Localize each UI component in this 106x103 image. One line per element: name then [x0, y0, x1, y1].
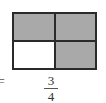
grid-cell-bottom-right	[55, 41, 96, 68]
fraction-denominator: 4	[44, 90, 58, 103]
equals-sign: =	[0, 75, 5, 89]
fraction-numerator: 3	[44, 74, 58, 87]
fraction: 3 4	[44, 74, 58, 103]
grid-cell-bottom-left	[14, 41, 55, 68]
grid-cell-top-right	[55, 14, 96, 41]
fraction-grid	[12, 12, 97, 70]
grid-cell-top-left	[14, 14, 55, 41]
